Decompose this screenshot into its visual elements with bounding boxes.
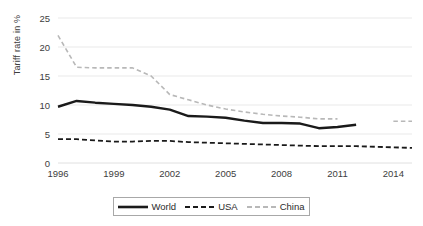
legend-label-usa: USA <box>218 201 238 212</box>
series-line-usa <box>58 139 412 148</box>
x-tick-labels-group: 1996199920022005200820112014 <box>47 168 404 179</box>
x-tick-label: 2008 <box>271 168 292 179</box>
plot-area: 0510152025 1996199920022005200820112014 <box>0 0 423 226</box>
y-tick-label: 20 <box>39 42 50 53</box>
light-dashed-line-swatch <box>247 203 277 211</box>
legend-item-usa[interactable]: USA <box>185 201 238 212</box>
x-tick-label: 1996 <box>47 168 68 179</box>
x-tick-label: 2005 <box>215 168 236 179</box>
y-tick-labels-group: 0510152025 <box>39 13 50 169</box>
gridlines-group <box>58 18 412 163</box>
data-series-group <box>58 35 412 148</box>
x-tick-label: 2002 <box>159 168 180 179</box>
chart-legend: World USA China <box>113 197 310 216</box>
y-tick-label: 5 <box>45 129 50 140</box>
solid-line-swatch <box>118 203 148 211</box>
x-tick-label: 1999 <box>103 168 124 179</box>
legend-item-world[interactable]: World <box>118 201 176 212</box>
y-tick-label: 10 <box>39 100 50 111</box>
legend-label-world: World <box>151 201 176 212</box>
y-tick-label: 15 <box>39 71 50 82</box>
tariff-rate-line-chart: Tariff rate in % 0510152025 199619992002… <box>0 0 423 226</box>
y-tick-label: 0 <box>45 158 50 169</box>
dashed-line-swatch <box>185 203 215 211</box>
legend-item-china[interactable]: China <box>247 201 305 212</box>
y-tick-label: 25 <box>39 13 50 24</box>
series-line-china <box>58 35 337 119</box>
x-tick-label: 2011 <box>327 168 347 179</box>
x-tick-label: 2014 <box>383 168 404 179</box>
legend-label-china: China <box>280 201 305 212</box>
